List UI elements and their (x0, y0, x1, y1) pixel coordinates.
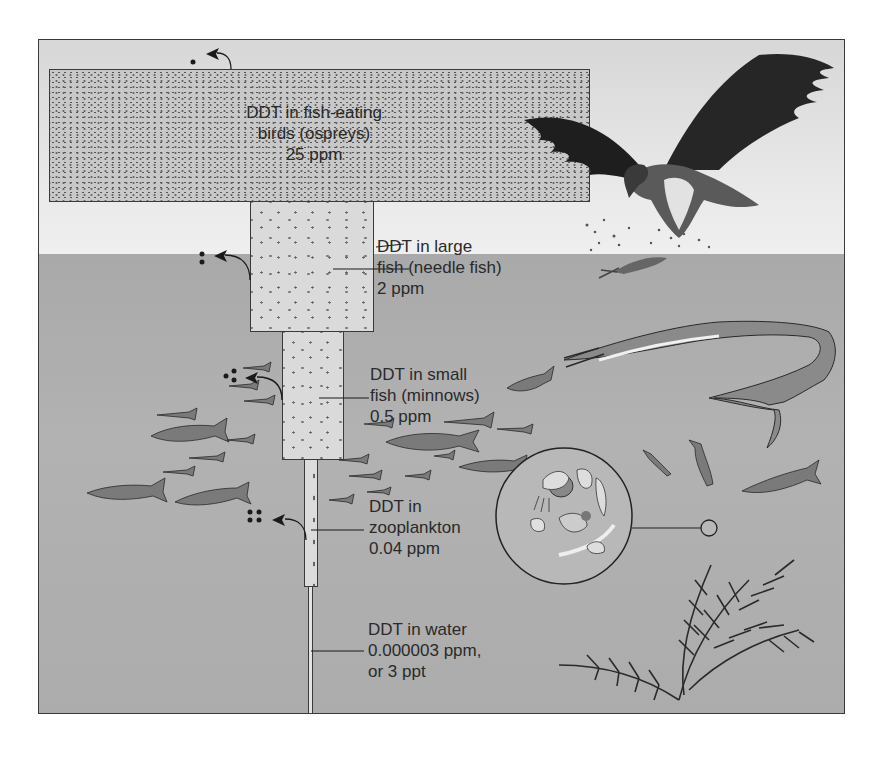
osprey-concentration: 25 ppm (214, 144, 414, 165)
osprey-label-line-1: DDT in fish-eating (214, 102, 414, 123)
water-label-line-2: 0.000003 ppm, (368, 640, 481, 661)
zooplankton-concentration: 0.04 ppm (369, 538, 461, 559)
water-label: DDT in water 0.000003 ppm, or 3 ppt (368, 619, 481, 682)
zooplankton-magnified-circle (496, 448, 717, 584)
aquatic-plant-icon (559, 560, 814, 700)
large-fish-label-line-2: fish (needle fish) (377, 257, 502, 278)
water-label-line-1: DDT in water (368, 619, 481, 640)
zooplankton-label: DDT in zooplankton 0.04 ppm (369, 496, 461, 559)
large-fish-label-line-1: DDT in large (377, 236, 502, 257)
zooplankton-source-marker (701, 520, 717, 536)
small-fish-label-line-1: DDT in small (370, 364, 480, 385)
zooplankton-label-line-1: DDT in (369, 496, 461, 517)
small-fish-concentration: 0.5 ppm (370, 406, 480, 427)
small-fish-label-line-2: fish (minnows) (370, 385, 480, 406)
water-label-line-3: or 3 ppt (368, 661, 481, 682)
osprey-label-line-2: birds (ospreys) (214, 123, 414, 144)
large-fish-concentration: 2 ppm (377, 278, 502, 299)
diagram-frame: DDT in fish-eating birds (ospreys) 25 pp… (38, 39, 845, 714)
leader-lines (311, 244, 409, 651)
osprey-icon (524, 54, 834, 278)
small-fish-label: DDT in small fish (minnows) 0.5 ppm (370, 364, 480, 427)
zooplankton-label-line-2: zooplankton (369, 517, 461, 538)
large-fish-label: DDT in large fish (needle fish) 2 ppm (377, 236, 502, 299)
needle-fish-icon (564, 321, 835, 448)
osprey-label: DDT in fish-eating birds (ospreys) 25 pp… (214, 102, 414, 165)
